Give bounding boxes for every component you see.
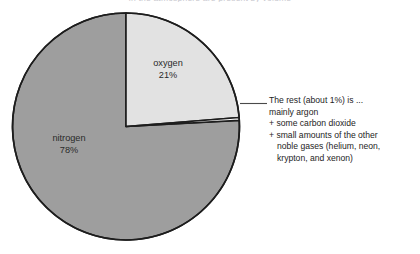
callout-line-1: The rest (about 1%) is ... (269, 95, 419, 107)
callout-line-2: mainly argon (269, 107, 419, 119)
pie-label-oxygen: oxygen 21% (132, 58, 204, 81)
pie-label-nitrogen-name: nitrogen (52, 133, 85, 143)
callout-line-6: krypton, and xenon) (269, 153, 419, 165)
pie-label-nitrogen-percent: 78% (31, 145, 107, 157)
pie-label-oxygen-percent: 21% (132, 70, 204, 82)
callout-line-3: + some carbon dioxide (269, 118, 419, 130)
callout-annotation: The rest (about 1%) is ... mainly argon … (269, 95, 419, 165)
callout-line-4: + small amounts of the other (269, 130, 419, 142)
pie-label-nitrogen: nitrogen 78% (31, 133, 107, 156)
callout-line-5: noble gases (helium, neon, (269, 141, 419, 153)
pie-chart-figure: in the atmosphere are present by volume … (0, 0, 420, 254)
pie-label-oxygen-name: oxygen (153, 58, 183, 68)
